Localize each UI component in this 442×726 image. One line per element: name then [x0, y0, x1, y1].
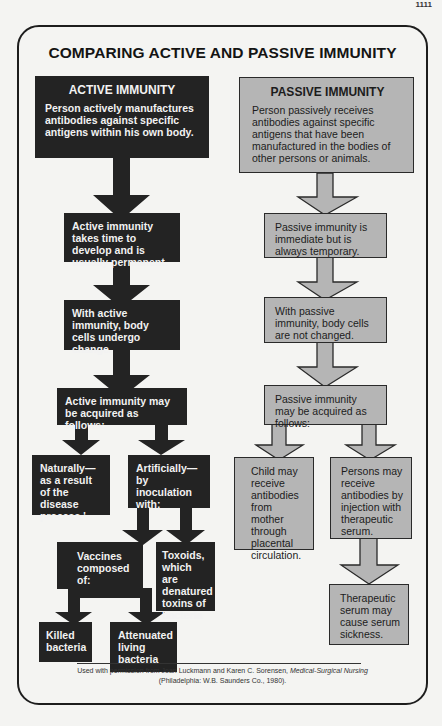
- arrow-down-icon: [93, 158, 150, 220]
- passive-mother-text: Child may receive antibodies from mother…: [251, 465, 301, 561]
- arrow-down-icon: [298, 342, 357, 387]
- arrow-down-icon: [298, 256, 357, 300]
- credit-authors: Used with permission from Joan Luckmann …: [77, 667, 290, 674]
- arrow-down-icon: [341, 538, 398, 584]
- passive-step-acquired: Passive immunity may be acquired as foll…: [264, 385, 387, 425]
- active-vaccines-text: Vaccines composed of:: [77, 550, 130, 586]
- active-intro: Person actively manufactures antibodies …: [45, 102, 194, 138]
- passive-injection-box: Persons may receive antibodies by inject…: [330, 457, 412, 539]
- arrow-down-icon: [55, 598, 92, 625]
- passive-intro: Person passively receives antibodies aga…: [252, 104, 390, 164]
- active-artificial-text: Artificially—by inoculation with:: [136, 462, 197, 510]
- active-natural-box: Naturally—as a result of the disease pro…: [32, 455, 110, 515]
- credit-book-title: Medical-Surgical Nursing: [290, 667, 368, 674]
- active-step2-text: Active immunity takes time to develop an…: [72, 220, 168, 268]
- active-vaccines-box: Vaccines composed of:: [57, 542, 143, 589]
- arrow-down-icon: [138, 425, 185, 455]
- passive-serum-sickness-box: Therapeutic serum may cause serum sickne…: [329, 584, 409, 645]
- credit-divider: [77, 663, 361, 664]
- passive-step4-text: Passive immunity may be acquired as foll…: [275, 393, 367, 429]
- passive-heading: PASSIVE IMMUNITY: [252, 86, 403, 98]
- active-killed-box: Killed bacteria: [39, 622, 92, 662]
- arrow-down-icon: [122, 508, 163, 545]
- arrow-down-icon: [256, 424, 303, 460]
- passive-step-cells: With passive immunity, body cells are no…: [264, 297, 387, 343]
- active-toxoids-box: Toxoids, which are denatured toxins of b…: [156, 542, 215, 611]
- active-attenuated-box: Attenuated living bacteria: [110, 622, 177, 672]
- active-attenuated-text: Attenuated living bacteria: [118, 629, 173, 665]
- credit-publisher: (Philadelphia: W.B. Saunders Co., 1980).: [159, 677, 287, 684]
- active-killed-text: Killed bacteria: [46, 629, 86, 653]
- arrow-down-icon: [346, 424, 395, 460]
- arrow-down-icon: [166, 508, 205, 545]
- passive-mother-box: Child may receive antibodies from mother…: [234, 457, 314, 550]
- active-step3-text: With active immunity, body cells undergo…: [72, 307, 149, 355]
- passive-step-immediate: Passive immunity is immediate but is alw…: [264, 213, 387, 258]
- active-step-cells: With active immunity, body cells undergo…: [64, 300, 180, 350]
- credit-text: Used with permission from Joan Luckmann …: [40, 666, 405, 686]
- passive-step2-text: Passive immunity is immediate but is alw…: [275, 221, 367, 257]
- passive-serum-sickness-text: Therapeutic serum may cause serum sickne…: [340, 592, 400, 640]
- active-toxoids-text: Toxoids, which are denatured toxins of b…: [162, 549, 213, 621]
- active-heading: ACTIVE IMMUNITY: [45, 84, 199, 96]
- active-step-develop: Active immunity takes time to develop an…: [64, 213, 180, 262]
- active-natural-text: Naturally—as a result of the disease pro…: [40, 462, 95, 522]
- passive-injection-text: Persons may receive antibodies by inject…: [341, 465, 403, 537]
- passive-immunity-box: PASSIVE IMMUNITY Person passively receiv…: [239, 77, 414, 173]
- active-step-acquired: Active immunity may be acquired as follo…: [57, 388, 187, 425]
- arrow-down-icon: [298, 173, 357, 215]
- passive-step3-text: With passive immunity, body cells are no…: [275, 305, 369, 341]
- active-immunity-box: ACTIVE IMMUNITY Person actively manufact…: [35, 76, 209, 158]
- active-artificial-box: Artificially—by inoculation with:: [128, 455, 210, 508]
